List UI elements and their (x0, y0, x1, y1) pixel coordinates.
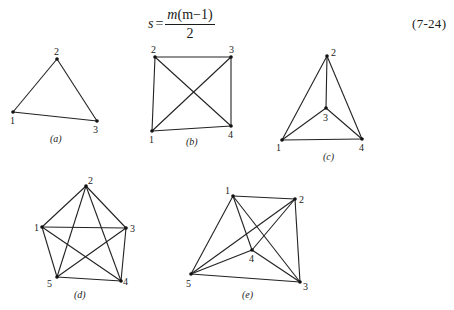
vertex-3 (124, 226, 128, 230)
vertex-label: 3 (323, 112, 328, 123)
graph-b: 1234(b) (149, 44, 234, 148)
edge-3-5 (57, 228, 126, 277)
edge-2-4 (252, 199, 295, 250)
vertex-label: 1 (276, 142, 281, 153)
vertex-4 (229, 124, 233, 128)
edge-2-5 (191, 199, 295, 274)
vertex-label: 3 (130, 223, 135, 234)
graph-a: 123(a) (10, 46, 99, 145)
edge-2-3 (86, 186, 126, 228)
vertex-label: 2 (88, 175, 93, 186)
edge-2-4 (327, 56, 362, 139)
vertex-1 (150, 129, 154, 133)
vertex-4 (250, 248, 254, 252)
graph-c: 1234(c) (276, 47, 364, 163)
vertex-4 (360, 137, 364, 141)
edge-1-2 (282, 56, 327, 140)
vertex-5 (55, 275, 59, 279)
vertex-label: 2 (299, 194, 304, 205)
figure-caption: (c) (323, 151, 335, 163)
figure-caption: (a) (50, 133, 62, 145)
graph-d: 12345(d) (34, 175, 135, 301)
vertex-2 (325, 54, 329, 58)
vertex-label: 3 (229, 44, 234, 55)
vertex-label: 4 (228, 129, 233, 140)
figure-caption: (b) (186, 136, 198, 148)
vertex-label: 1 (225, 185, 230, 196)
edge-2-3 (326, 56, 327, 108)
edge-2-3 (295, 199, 300, 282)
edge-1-3 (152, 57, 231, 131)
vertex-3 (229, 55, 233, 59)
vertex-5 (189, 272, 193, 276)
vertex-1 (11, 110, 15, 114)
vertex-1 (40, 225, 44, 229)
edge-2-3 (57, 59, 97, 121)
vertex-label: 4 (359, 142, 364, 153)
edge-1-3 (42, 227, 126, 228)
vertex-label: 3 (303, 281, 308, 292)
graph-figures: 123(a)1234(b)1234(c)12345(d)12345(e) (0, 0, 454, 310)
edge-3-4 (121, 228, 126, 281)
vertex-label: 5 (47, 278, 52, 289)
vertex-3 (324, 106, 328, 110)
edge-2-4 (86, 186, 121, 281)
edge-1-4 (42, 227, 121, 281)
vertex-label: 1 (34, 222, 39, 233)
edge-1-2 (233, 196, 295, 199)
edge-1-4 (282, 139, 362, 140)
graph-e: 12345(e) (186, 185, 308, 301)
edge-1-4 (152, 126, 231, 131)
vertex-label: 2 (331, 47, 336, 58)
vertex-label: 2 (151, 44, 156, 55)
vertex-label: 4 (123, 276, 128, 287)
vertex-label: 1 (10, 115, 15, 126)
edge-1-5 (191, 196, 233, 274)
vertex-3 (298, 280, 302, 284)
vertex-label: 4 (249, 253, 254, 264)
vertex-label: 3 (93, 124, 98, 135)
edge-1-2 (152, 57, 155, 131)
edge-3-4 (326, 108, 362, 139)
vertex-2 (153, 55, 157, 59)
figure-caption: (d) (74, 289, 86, 301)
vertex-1 (231, 194, 235, 198)
edge-4-5 (57, 277, 121, 281)
edge-1-3 (233, 196, 300, 282)
vertex-2 (293, 197, 297, 201)
edge-4-3 (252, 250, 300, 282)
figure-caption: (e) (242, 289, 254, 301)
edge-5-1 (42, 227, 57, 277)
edge-1-3 (282, 108, 326, 140)
edge-5-4 (191, 250, 252, 274)
vertex-label: 1 (149, 134, 154, 145)
edge-5-3 (191, 274, 300, 282)
vertex-label: 2 (54, 46, 59, 57)
edge-1-2 (13, 59, 57, 112)
vertex-label: 5 (186, 278, 191, 289)
edge-1-3 (13, 112, 97, 121)
vertex-2 (55, 57, 59, 61)
vertex-3 (95, 119, 99, 123)
